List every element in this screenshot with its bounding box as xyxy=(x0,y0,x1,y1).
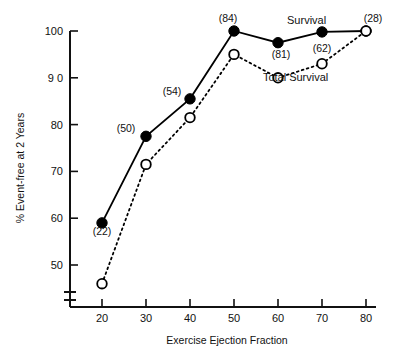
x-tick-label-50: 50 xyxy=(228,312,240,324)
y-tick-label-50: 50 xyxy=(51,259,63,271)
point-label-28: (28) xyxy=(364,12,383,24)
y-tick-label-100: 100 xyxy=(45,25,63,37)
series-annotation-survival: Survival xyxy=(287,14,326,26)
y-tick-label-90: 9 0 xyxy=(48,72,63,84)
marker-survival-70 xyxy=(317,27,327,37)
marker-survival-30 xyxy=(141,131,151,141)
marker-total-survival-80 xyxy=(361,26,371,36)
point-label-84: (84) xyxy=(219,12,238,24)
chart-container: 506070809 010020304050607080 (22)(50)(54… xyxy=(0,0,396,354)
point-label-62: (62) xyxy=(313,42,332,54)
x-tick-label-60: 60 xyxy=(272,312,284,324)
x-tick-label-40: 40 xyxy=(184,312,196,324)
survival-line-chart: 506070809 010020304050607080 (22)(50)(54… xyxy=(0,0,396,354)
y-axis-title: % Event-free at 2 Years xyxy=(14,113,26,223)
marker-total-survival-20 xyxy=(97,279,107,289)
series-line-2 xyxy=(102,31,366,284)
marker-total-survival-30 xyxy=(141,160,151,170)
chart-point-labels: (22)(50)(54)(84)(81)(62)(28) xyxy=(93,12,383,237)
chart-series xyxy=(102,31,366,284)
marker-survival-40 xyxy=(185,94,195,104)
point-label-22: (22) xyxy=(93,225,112,237)
x-tick-label-30: 30 xyxy=(140,312,152,324)
x-tick-label-20: 20 xyxy=(96,312,108,324)
marker-total-survival-50 xyxy=(229,50,239,60)
x-tick-label-70: 70 xyxy=(316,312,328,324)
chart-axes xyxy=(64,31,376,307)
point-label-81: (81) xyxy=(272,48,291,60)
marker-total-survival-40 xyxy=(185,113,195,123)
point-label-50: (50) xyxy=(117,122,136,134)
chart-data-markers xyxy=(97,26,371,289)
x-axis-title: Exercise Ejection Fraction xyxy=(166,334,288,346)
y-tick-label-80: 80 xyxy=(51,119,63,131)
marker-total-survival-70 xyxy=(317,59,327,69)
series-annotation-total-survival: Total Survival xyxy=(263,71,328,83)
marker-survival-50 xyxy=(229,26,239,36)
y-tick-label-60: 60 xyxy=(51,212,63,224)
x-tick-label-80: 80 xyxy=(360,312,372,324)
marker-survival-60 xyxy=(273,38,283,48)
point-label-54: (54) xyxy=(163,85,182,97)
y-tick-label-70: 70 xyxy=(51,165,63,177)
